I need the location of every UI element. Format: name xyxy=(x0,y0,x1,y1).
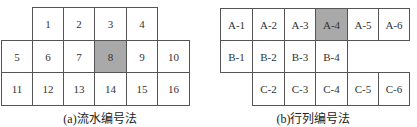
grid-cell: C-2 xyxy=(252,72,285,106)
caption-row-column-numbering: (b)行列编号法 xyxy=(210,109,417,127)
grid-cell: 5 xyxy=(1,40,33,73)
caption-sequential-numbering: (a)流水编号法 xyxy=(0,109,200,127)
grid-cell: A-6 xyxy=(378,8,410,41)
grid-cell: 14 xyxy=(94,72,127,106)
grid-cell: 9 xyxy=(126,40,158,73)
grid-cell: B-4 xyxy=(315,40,348,73)
grid-cell: 2 xyxy=(63,7,95,41)
grid-cell: A-3 xyxy=(284,8,316,41)
grid-cell: C-6 xyxy=(378,72,410,106)
grid-cell: C-3 xyxy=(284,72,316,106)
grid-cell: 6 xyxy=(32,40,64,73)
grid-cell: 1 xyxy=(32,7,64,41)
grid-cell: 3 xyxy=(94,7,127,41)
grid-cell: 7 xyxy=(63,40,95,73)
grid-cell: C-4 xyxy=(315,72,348,106)
grid-cell: A-2 xyxy=(252,8,285,41)
grid-cell: 16 xyxy=(157,72,190,106)
grid-cell: A-5 xyxy=(347,8,379,41)
grid-cell-highlighted: 8 xyxy=(94,40,127,73)
grid-cell: 13 xyxy=(63,72,95,106)
grid-cell: C-5 xyxy=(347,72,379,106)
grid-cell: 10 xyxy=(157,40,190,73)
grid-cell-highlighted: A-4 xyxy=(315,8,348,41)
grid-cell: 12 xyxy=(32,72,64,106)
grid-cell: B-3 xyxy=(284,40,316,73)
grid-cell: B-1 xyxy=(220,40,253,73)
grid-cell: 15 xyxy=(126,72,158,106)
grid-cell: B-2 xyxy=(252,40,285,73)
grid-cell: A-1 xyxy=(220,8,253,41)
grid-cell: 4 xyxy=(126,7,158,41)
grid-cell: 11 xyxy=(1,72,33,106)
